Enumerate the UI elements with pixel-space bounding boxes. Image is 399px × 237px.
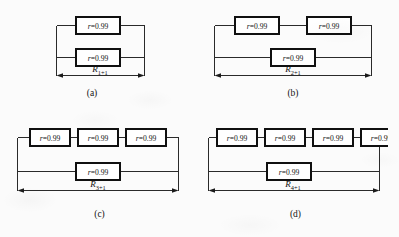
component-label-bottom-1: r=0.99 xyxy=(283,54,304,63)
dimension-arrowhead-right xyxy=(172,188,179,193)
panel-c-circuit-svg: r=0.99 r=0.99 r=0.99 r=0.99 R3+1 xyxy=(12,120,187,206)
panel-b-reliability-block-diagram: r=0.99 r=0.99 r=0.99 R2+1 (b) xyxy=(203,4,383,90)
dimension-arrowhead-right xyxy=(138,73,145,78)
component-label-bottom-1: r=0.99 xyxy=(88,168,109,177)
dimension-arrowhead-right xyxy=(373,188,380,193)
component-label-top-3: r=0.99 xyxy=(323,134,344,143)
component-label-bottom-1: r=0.99 xyxy=(88,54,109,63)
component-label-top-2: r=0.99 xyxy=(88,134,109,143)
component-label-top-1: r=0.99 xyxy=(40,134,61,143)
panel-d-reliability-block-diagram: r=0.99 r=0.99 r=0.99 r=0.99 r=0.99 R4+1 … xyxy=(203,120,388,206)
panel-a-reliability-block-diagram: r=0.99 r=0.99 R1+1 (a) xyxy=(12,4,172,90)
panel-letter-a: (a) xyxy=(12,88,172,98)
dimension-arrowhead-left xyxy=(18,188,25,193)
panel-letter-b: (b) xyxy=(203,88,383,98)
panel-d-circuit-svg: r=0.99 r=0.99 r=0.99 r=0.99 r=0.99 R4+1 xyxy=(203,120,388,206)
panel-c-reliability-block-diagram: r=0.99 r=0.99 r=0.99 r=0.99 R3+1 (c) xyxy=(12,120,187,206)
dimension-arrowhead-right xyxy=(365,73,372,78)
panel-a-circuit-svg: r=0.99 r=0.99 R1+1 xyxy=(12,4,172,90)
panel-letter-c: (c) xyxy=(12,209,187,219)
component-label-top-1: r=0.99 xyxy=(247,22,268,31)
dimension-arrowhead-left xyxy=(57,73,64,78)
component-label-top-2: r=0.99 xyxy=(275,134,296,143)
dimension-arrowhead-left xyxy=(215,73,222,78)
component-label-top-2: r=0.99 xyxy=(319,22,340,31)
panel-b-circuit-svg: r=0.99 r=0.99 r=0.99 R2+1 xyxy=(203,4,383,90)
component-label-top-1: r=0.99 xyxy=(88,22,109,31)
component-label-top-3: r=0.99 xyxy=(136,134,157,143)
dimension-arrowhead-left xyxy=(209,188,216,193)
component-label-top-4: r=0.99 xyxy=(371,134,388,143)
panel-letter-d: (d) xyxy=(203,209,388,219)
component-label-bottom-1: r=0.99 xyxy=(279,168,300,177)
component-label-top-1: r=0.99 xyxy=(227,134,248,143)
